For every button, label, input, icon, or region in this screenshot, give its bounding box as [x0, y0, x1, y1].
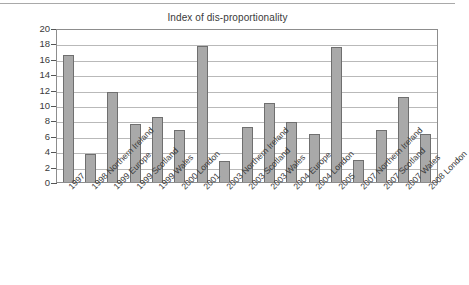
y-tick-label: 10 [4, 101, 50, 111]
bar[interactable] [63, 55, 74, 182]
y-tick-label: 4 [4, 147, 50, 157]
y-tick-label: 20 [4, 24, 50, 34]
bar-slot [79, 30, 101, 182]
x-axis-labels: 19971998 Northern Ireland1999 Europe1999… [56, 185, 438, 283]
y-tick-label: 2 [4, 163, 50, 173]
y-tick-label: 12 [4, 86, 50, 96]
y-tick-label: 14 [4, 70, 50, 80]
bar-slot [57, 30, 79, 182]
chart-title: Index of dis-proportionality [0, 12, 455, 23]
y-tick-label: 6 [4, 132, 50, 142]
y-tick-label: 18 [4, 39, 50, 49]
y-tick-label: 0 [4, 178, 50, 188]
y-tick-label: 16 [4, 55, 50, 65]
y-tick-mark [51, 183, 56, 184]
y-tick-label: 8 [4, 116, 50, 126]
